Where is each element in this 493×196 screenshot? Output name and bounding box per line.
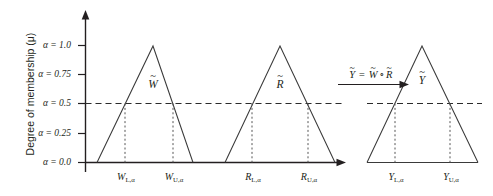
x-tick-sub-r-lower: L,α xyxy=(251,176,260,183)
x-tick-sub-w-upper: U,α xyxy=(173,176,183,183)
triangle-r-outline xyxy=(225,46,335,163)
x-tick-label-y-upper: YU,α xyxy=(443,172,459,182)
membership-triangle-r xyxy=(225,46,335,163)
x-tick-label-r-lower: RL,α xyxy=(245,172,261,182)
y-tick-label-0.0: α = 0.0 xyxy=(17,158,71,168)
equation-operator: ∘ xyxy=(378,70,386,80)
x-tick-base-y-upper: Y xyxy=(443,171,449,182)
tilde-mark-r: ~ xyxy=(277,71,283,82)
y-axis-arrowhead xyxy=(82,10,90,20)
tilde-wrapper-y: ~Y xyxy=(419,75,425,87)
tilde-mark-eq-op2: ~ xyxy=(387,63,393,73)
x-tick-label-w-lower: WL,α xyxy=(117,172,135,182)
fuzzy-set-label-y: ~Y xyxy=(419,75,425,87)
y-axis-title: Degree of membership (μ) xyxy=(24,9,36,179)
x-tick-label-r-upper: RU,α xyxy=(301,172,317,182)
x-axis-arrowhead xyxy=(337,159,347,166)
x-tick-sub-y-lower: L,α xyxy=(394,176,403,183)
x-tick-sub-w-lower: L,α xyxy=(125,176,134,183)
x-tick-base-y-lower: Y xyxy=(389,171,395,182)
tilde-wrapper-eq-op2: ~R xyxy=(386,70,393,81)
composition-arrow-group xyxy=(338,81,409,88)
composition-equation: ~Y = ~W∘~R xyxy=(349,70,392,81)
tilde-mark-y: ~ xyxy=(419,67,425,78)
tilde-wrapper-eq-op1: ~W xyxy=(369,70,378,81)
x-tick-sub-r-upper: U,α xyxy=(307,176,317,183)
x-tick-label-w-upper: WU,α xyxy=(165,172,184,182)
tilde-wrapper-r: ~R xyxy=(276,79,283,91)
y-tick-label-0.5: α = 0.5 xyxy=(17,99,71,109)
fuzzy-set-label-r: ~R xyxy=(276,79,283,91)
tilde-wrapper-eq-lhs: ~Y xyxy=(349,70,355,81)
tilde-mark-w: ~ xyxy=(150,71,156,82)
y-tick-label-0.25: α = 0.25 xyxy=(17,129,71,139)
triangle-w-outline xyxy=(97,46,193,163)
membership-triangle-y xyxy=(367,46,478,163)
membership-triangle-w xyxy=(97,46,193,163)
composition-arrowhead xyxy=(400,81,410,88)
y-tick-label-0.75: α = 0.75 xyxy=(17,70,71,80)
y-axis-group xyxy=(82,10,90,172)
figure-canvas xyxy=(0,0,493,196)
y-tick-label-1.0: α = 1.0 xyxy=(17,41,71,51)
x-tick-sub-y-upper: U,α xyxy=(449,176,459,183)
fuzzy-membership-figure: Degree of membership (μ) α = 1.0 α = 0.7… xyxy=(0,0,493,196)
tilde-mark-eq-op1: ~ xyxy=(370,63,376,73)
tilde-wrapper-w: ~W xyxy=(148,79,158,91)
fuzzy-set-label-w: ~W xyxy=(148,79,158,91)
x-tick-label-y-lower: YL,α xyxy=(389,172,404,182)
equation-equals: = xyxy=(355,69,368,80)
tilde-mark-eq-lhs: ~ xyxy=(350,63,356,73)
y-tick-marks xyxy=(78,46,86,163)
triangle-y-outline xyxy=(367,46,478,163)
